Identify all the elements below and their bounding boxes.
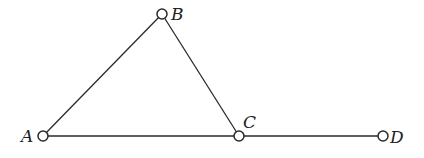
point-d-marker [378,131,388,141]
labels: A B C D [19,4,404,147]
point-d-label: D [389,127,404,147]
point-c-label: C [243,112,256,132]
segments [43,14,383,136]
segment-bc [162,14,239,136]
point-a-label: A [19,126,33,146]
point-b-label: B [170,4,184,24]
nodes [38,9,388,141]
point-b-marker [157,9,167,19]
point-c-marker [234,131,244,141]
segment-ab [43,14,162,136]
geometry-diagram: A B C D [0,0,424,158]
point-a-marker [38,131,48,141]
